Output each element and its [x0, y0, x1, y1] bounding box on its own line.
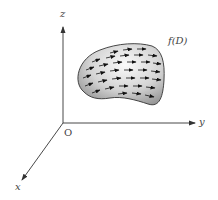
y-axis-label: y	[199, 117, 205, 127]
surface-label: f(D)	[168, 36, 188, 46]
diagram-canvas	[0, 0, 218, 200]
surface-blob	[78, 44, 164, 105]
vector-field-diagram: z y x O f(D)	[0, 0, 218, 200]
surface-f-of-D	[78, 44, 164, 105]
z-axis-label: z	[60, 9, 65, 19]
x-axis	[22, 123, 63, 180]
x-axis-label: x	[15, 182, 21, 192]
origin-label: O	[64, 128, 72, 138]
